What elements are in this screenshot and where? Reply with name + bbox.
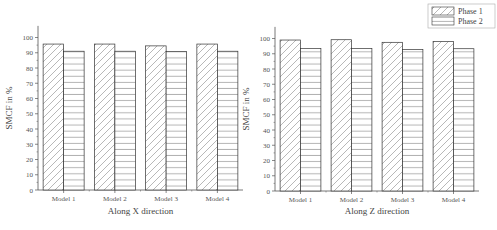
- bar-phase-2-model-3: [403, 49, 423, 191]
- chart-along-z: 0102030405060708090100Model 1Model 2Mode…: [241, 27, 479, 216]
- y-tick-label: 50: [26, 110, 34, 118]
- legend-swatch-phase-2: [432, 17, 454, 25]
- y-tick-label: 50: [263, 111, 271, 119]
- x-tick-label: Model 1: [52, 195, 76, 203]
- bar-phase-1-model-4: [197, 44, 218, 190]
- y-tick-label: 40: [263, 127, 271, 135]
- bar-phase-2-model-2: [115, 51, 136, 190]
- y-tick-label: 70: [26, 80, 34, 88]
- bar-phase-1-model-2: [331, 40, 351, 191]
- x-axis-title: Along Z direction: [345, 206, 410, 216]
- x-tick-label: Model 3: [391, 196, 415, 204]
- bar-phase-2-model-4: [217, 51, 238, 190]
- y-tick-label: 0: [30, 187, 34, 195]
- bar-phase-1-model-1: [280, 40, 300, 191]
- y-tick-label: 100: [260, 35, 271, 43]
- bar-phase-2-model-4: [454, 49, 474, 191]
- x-tick-label: Model 2: [340, 196, 364, 204]
- legend-label-phase-2: Phase 2: [458, 17, 483, 26]
- bar-phase-2-model-2: [352, 48, 372, 191]
- y-tick-label: 10: [26, 171, 34, 179]
- chart-canvas: 0102030405060708090100Model 1Model 2Mode…: [0, 0, 497, 230]
- y-tick-label: 30: [263, 142, 271, 150]
- bar-phase-1-model-1: [43, 44, 64, 190]
- y-axis-title: SMCF in %: [241, 87, 251, 131]
- x-tick-label: Model 1: [289, 196, 313, 204]
- chart-along-x: 0102030405060708090100Model 1Model 2Mode…: [4, 26, 243, 216]
- y-tick-label: 60: [26, 95, 34, 103]
- bar-phase-1-model-4: [433, 42, 453, 191]
- y-tick-label: 90: [26, 49, 34, 57]
- y-tick-label: 80: [263, 66, 271, 74]
- y-tick-label: 90: [263, 50, 271, 58]
- y-axis-title: SMCF in %: [4, 86, 14, 130]
- x-tick-label: Model 3: [154, 195, 178, 203]
- bar-phase-2-model-1: [301, 48, 321, 191]
- y-tick-label: 100: [23, 34, 34, 42]
- legend-swatch-phase-1: [432, 7, 454, 15]
- y-tick-label: 20: [26, 156, 34, 164]
- y-tick-label: 30: [26, 141, 34, 149]
- x-axis-title: Along X direction: [108, 206, 174, 216]
- bar-phase-1-model-3: [146, 46, 167, 190]
- y-tick-label: 20: [263, 157, 271, 165]
- y-tick-label: 60: [263, 96, 271, 104]
- y-tick-label: 10: [263, 172, 271, 180]
- x-tick-label: Model 4: [442, 196, 466, 204]
- x-tick-label: Model 2: [103, 195, 127, 203]
- bar-phase-1-model-2: [94, 44, 115, 190]
- y-tick-label: 80: [26, 65, 34, 73]
- x-tick-label: Model 4: [206, 195, 230, 203]
- y-tick-label: 0: [267, 188, 271, 196]
- y-tick-label: 40: [26, 126, 34, 134]
- bar-phase-2-model-1: [64, 51, 85, 190]
- legend-label-phase-1: Phase 1: [458, 7, 483, 16]
- y-tick-label: 70: [263, 81, 271, 89]
- legend: Phase 1 Phase 2: [428, 4, 495, 28]
- bar-phase-2-model-3: [166, 52, 187, 190]
- bar-phase-1-model-3: [382, 42, 402, 191]
